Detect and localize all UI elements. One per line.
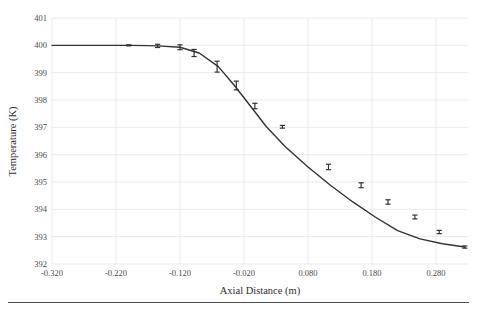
footer-rule: [8, 302, 469, 303]
x-axis-tick-label: 0.280: [426, 269, 445, 278]
y-axis-tick-label: 392: [34, 260, 47, 269]
chart-figure: Temperature (K) 392393394395396397398399…: [0, 0, 477, 312]
y-axis-tick-label: 393: [34, 232, 47, 241]
x-axis-label-text: Axial Distance (m): [220, 285, 300, 296]
x-axis-tick-label: -0.220: [105, 269, 127, 278]
x-axis-tick-label: -0.320: [41, 269, 63, 278]
y-axis-label-text: Temperature (K): [7, 106, 18, 176]
error-bar-marker: [326, 164, 331, 169]
y-axis-label: Temperature (K): [4, 18, 20, 264]
y-axis-tick-label: 397: [34, 123, 47, 132]
x-axis-tick-label: -0.020: [233, 269, 255, 278]
error-bar-marker: [385, 200, 390, 204]
y-axis-tick-label: 395: [34, 178, 47, 187]
y-axis-tick-label: 394: [34, 205, 47, 214]
x-axis-tick-label: 0.180: [362, 269, 381, 278]
plot-area: 392393394395396397398399400401 -0.320-0.…: [52, 18, 468, 264]
error-bar-marker: [126, 45, 131, 46]
x-axis-label: Axial Distance (m): [52, 285, 468, 296]
y-axis-tick-label: 400: [34, 41, 47, 50]
y-axis-tick-label: 399: [34, 68, 47, 77]
error-bar-marker: [280, 125, 285, 128]
temperature-line: [52, 45, 465, 247]
x-axis-tick-label: 0.080: [298, 269, 317, 278]
y-axis-tick-label: 398: [34, 96, 47, 105]
error-bar-marker: [359, 183, 364, 188]
y-axis-tick-label: 401: [34, 14, 47, 23]
error-bar-marker: [252, 103, 257, 108]
x-axis-tick-label: -0.120: [169, 269, 191, 278]
y-axis-tick-label: 396: [34, 150, 47, 159]
error-bar-marker: [437, 230, 442, 233]
error-bar-marker: [412, 215, 417, 219]
data-series-layer: [52, 18, 468, 264]
